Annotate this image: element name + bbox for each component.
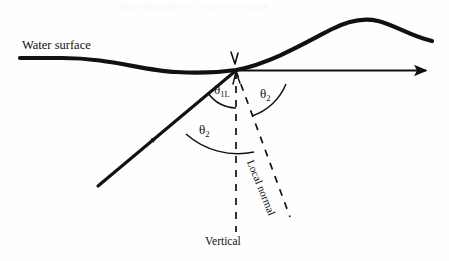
theta-2-upper-subscript: 2 [266, 93, 270, 103]
theta-2-lower-subscript: 2 [205, 129, 209, 139]
angle-label-theta-1l: θ1L [214, 82, 230, 98]
water-surface-label: Water surface [22, 38, 91, 53]
angle-label-theta-2-lower: θ2 [199, 122, 209, 138]
figure-canvas: bleed-through text from reverse page [0, 0, 449, 261]
angle-label-theta-2-upper: θ2 [260, 86, 270, 102]
angle-arc-theta-2-lower [186, 134, 254, 154]
intersection-tick-mark [231, 52, 238, 64]
vertical-label: Vertical [205, 235, 241, 247]
theta-1l-subscript: 1L [220, 89, 229, 99]
